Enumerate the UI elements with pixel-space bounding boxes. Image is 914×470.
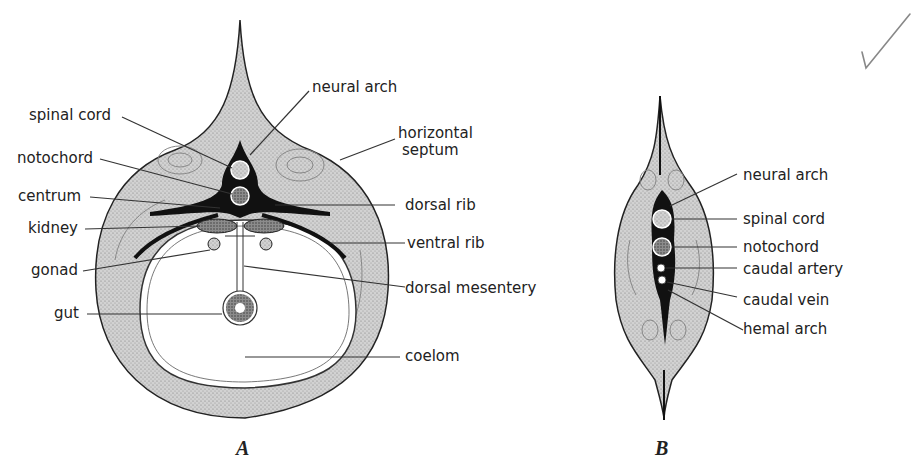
gonad-right-a — [260, 238, 272, 250]
label-ventral-rib-a: ventral rib — [407, 234, 485, 252]
kidney-right-a — [244, 219, 284, 233]
spinal-cord-a — [231, 161, 249, 179]
notochord-b — [653, 238, 671, 256]
label-hemal-arch-b: hemal arch — [743, 320, 827, 338]
label-neural-arch-b: neural arch — [743, 166, 828, 184]
label-neural-arch-a: neural arch — [312, 78, 397, 96]
label-caudal-artery-b: caudal artery — [743, 260, 843, 278]
label-notochord-a: notochord — [17, 149, 93, 167]
spinal-cord-b — [653, 210, 671, 228]
label-gonad-a: gonad — [31, 261, 78, 279]
label-centrum-a: centrum — [18, 187, 81, 205]
label-horizontal-septum-a-line1: horizontal — [398, 124, 473, 142]
check-mark-icon — [862, 14, 910, 68]
label-spinal-cord-a: spinal cord — [29, 106, 111, 124]
label-horizontal-septum-a-line2: septum — [402, 141, 459, 159]
caption-b: B — [654, 437, 668, 459]
label-gut-a: gut — [54, 304, 79, 322]
label-kidney-a: kidney — [28, 219, 78, 237]
caudal-vein-b — [658, 276, 666, 284]
label-coelom-a: coelom — [405, 347, 460, 365]
notochord-a — [231, 187, 249, 205]
figure-b-tail-section: neural arch spinal cord notochord caudal… — [615, 96, 844, 459]
caption-a: A — [234, 437, 249, 459]
label-caudal-vein-b: caudal vein — [743, 291, 829, 309]
figure-a-trunk-section: spinal cord notochord centrum kidney gon… — [17, 20, 536, 459]
gonad-left-a — [208, 238, 220, 250]
caudal-artery-b — [657, 264, 665, 272]
label-dorsal-rib-a: dorsal rib — [405, 196, 476, 214]
label-dorsal-mesentery-a: dorsal mesentery — [405, 279, 536, 297]
kidney-left-a — [197, 219, 237, 233]
label-spinal-cord-b: spinal cord — [743, 210, 825, 228]
label-notochord-b: notochord — [743, 238, 819, 256]
diagram-canvas: spinal cord notochord centrum kidney gon… — [0, 0, 914, 470]
